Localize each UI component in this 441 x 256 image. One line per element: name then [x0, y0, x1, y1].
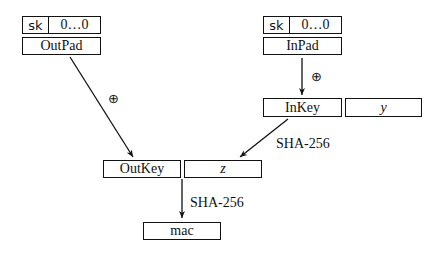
- message-z-box: z: [184, 160, 262, 178]
- mac-box: mac: [143, 222, 221, 240]
- left-zeros-cell: 0…0: [48, 16, 101, 34]
- inkey-box: InKey: [263, 98, 342, 117]
- xor-icon-right: ⊕: [311, 70, 322, 83]
- right-zeros-cell: 0…0: [289, 16, 342, 34]
- arrow-outpad-to-outkey: [70, 57, 133, 157]
- hmac-diagram: sk 0…0 OutPad ⊕ sk 0…0 InPad ⊕ InKey y S…: [0, 0, 441, 256]
- xor-icon-left: ⊕: [108, 92, 119, 105]
- outpad-box: OutPad: [22, 37, 101, 55]
- outer-hash-label: SHA-256: [190, 196, 244, 210]
- inner-hash-label: SHA-256: [276, 137, 330, 151]
- outkey-box: OutKey: [103, 160, 181, 178]
- left-sk-cell: sk: [22, 16, 49, 34]
- message-y-box: y: [345, 98, 422, 117]
- right-sk-cell: sk: [263, 16, 290, 34]
- inpad-box: InPad: [263, 37, 342, 55]
